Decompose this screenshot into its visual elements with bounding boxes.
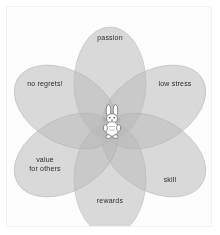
petal-label-value-line2: for others: [2, 164, 88, 173]
petal-label-rewards: rewards: [0, 196, 220, 205]
petal-label-no-regrets: no regrets!: [2, 79, 88, 88]
petal-label-skill: skill: [132, 175, 208, 184]
petal-label-value-for-others: value for others: [2, 155, 88, 173]
diagram-canvas: passion no regrets! low stress value for…: [0, 0, 220, 235]
petal-label-passion: passion: [0, 33, 220, 42]
petal-label-value-line1: value: [2, 155, 88, 164]
rabbit-icon: [98, 104, 126, 140]
petal-label-low-stress: low stress: [132, 79, 218, 88]
